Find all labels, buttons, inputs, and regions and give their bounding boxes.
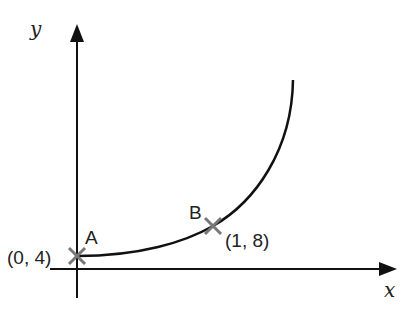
- point-b-marker-icon: [205, 218, 221, 234]
- point-b-name: B: [189, 202, 202, 223]
- x-axis-arrow-icon: [379, 262, 397, 276]
- point-b-coord: (1, 8): [225, 230, 269, 251]
- point-a-coord: (0, 4): [7, 247, 51, 268]
- y-axis-arrow-icon: [70, 24, 84, 42]
- y-axis-label: y: [29, 17, 42, 41]
- graph: y x A (0, 4) B (1, 8): [0, 0, 404, 312]
- point-a-name: A: [85, 227, 98, 248]
- x-axis-label: x: [384, 278, 395, 302]
